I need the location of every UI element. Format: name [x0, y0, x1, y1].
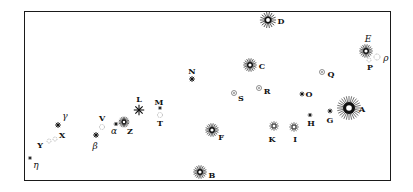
star-label-k: K	[269, 135, 276, 143]
star-label-p: P	[367, 63, 373, 71]
star-c-icon	[240, 55, 260, 75]
star-label-a: A	[359, 105, 365, 113]
star-label-i: I	[293, 135, 297, 143]
star-label-f: F	[218, 133, 224, 141]
star-y-icon	[45, 137, 53, 145]
star-g-icon	[326, 107, 334, 115]
star-gamma-icon	[53, 120, 63, 130]
star-r-icon	[254, 83, 264, 93]
star-label-v: V	[99, 114, 105, 122]
star-label-e: E	[365, 35, 372, 44]
star-d-icon	[256, 8, 280, 32]
star-label-g: G	[327, 116, 334, 124]
star-label-alpha: α	[111, 127, 117, 136]
star-label-m: M	[155, 98, 164, 106]
star-label-d: D	[278, 17, 285, 25]
star-beta-icon	[91, 130, 101, 140]
star-label-q: Q	[328, 70, 335, 78]
star-label-beta: β	[92, 142, 97, 151]
star-q-icon	[317, 67, 327, 77]
star-label-n: N	[188, 67, 195, 75]
star-label-rho: ρ	[383, 54, 388, 63]
star-label-t: T	[157, 119, 163, 127]
star-k-icon	[266, 118, 282, 134]
star-label-b: B	[209, 171, 216, 179]
star-label-eta: η	[33, 161, 38, 170]
star-label-s: S	[238, 94, 244, 102]
star-label-x: X	[59, 131, 65, 139]
star-l-icon	[131, 102, 147, 118]
star-label-r: R	[264, 87, 271, 95]
star-label-z: Z	[127, 127, 133, 135]
star-b-icon	[190, 162, 210, 182]
star-label-l: L	[136, 95, 142, 103]
star-i-icon	[286, 119, 302, 135]
star-label-h: H	[307, 119, 315, 127]
star-label-o: O	[306, 90, 313, 98]
star-label-gamma: γ	[62, 112, 67, 121]
star-label-c: C	[259, 62, 265, 70]
star-label-y: Y	[37, 141, 43, 149]
